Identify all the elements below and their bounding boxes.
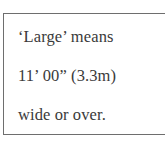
size-definition-box: ‘Large’ means 11’ 00” (3.3m) wide or ove… bbox=[3, 13, 165, 135]
definition-line-1: ‘Large’ means bbox=[18, 29, 114, 46]
definition-line-3: wide or over. bbox=[18, 107, 106, 124]
definition-line-2: 11’ 00” (3.3m) bbox=[18, 68, 116, 85]
